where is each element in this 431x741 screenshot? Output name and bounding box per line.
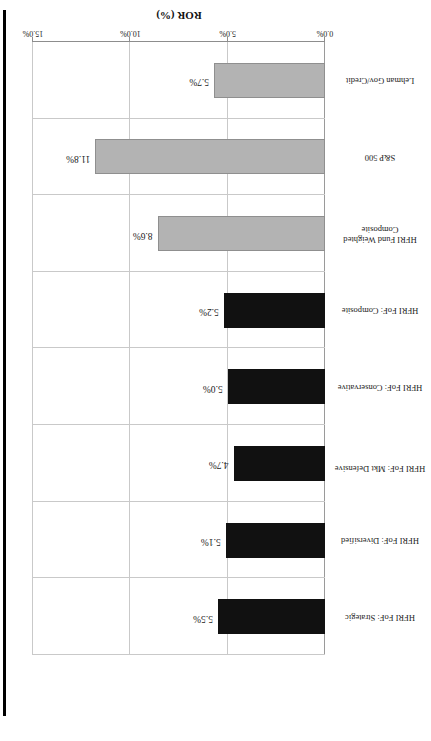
category-label: Lehman Gov/Credit <box>331 76 429 86</box>
category-label: HFRI FoF: Composite <box>331 306 429 316</box>
category-label: HFRI FoF: Diversified <box>331 536 429 546</box>
bar-value-label: 8.6% <box>133 231 153 241</box>
bar <box>224 293 325 328</box>
category-divider <box>33 577 325 578</box>
bar-value-label: 4.7% <box>209 460 229 470</box>
plot-top-border <box>33 654 325 655</box>
category-divider <box>33 118 325 119</box>
category-label: HFRI Fund Weighted Composite <box>331 225 429 245</box>
bar <box>226 523 325 558</box>
bar <box>218 599 325 634</box>
category-label: HFRI FoF: Strategic <box>331 613 429 623</box>
bar-chart-figure: 5.5%5.1%4.7%5.0%5.2%8.6%11.8%5.7% HFRI F… <box>0 0 431 741</box>
category-dividers-group <box>33 42 325 655</box>
category-divider <box>33 501 325 502</box>
category-label: HFRI FoF: Conservative <box>331 383 429 393</box>
bar-value-label: 5.1% <box>201 537 221 547</box>
bar <box>158 216 325 251</box>
axis-tick-label: 10.0% <box>120 29 141 38</box>
category-divider <box>33 271 325 272</box>
category-label: HFRI FoF: Mkt Defensive <box>331 464 429 474</box>
bar-value-label: 5.5% <box>193 614 213 624</box>
bar <box>214 63 325 98</box>
bar-value-label: 5.0% <box>203 384 223 394</box>
category-divider <box>33 194 325 195</box>
axis-tick-label: 5.0% <box>219 29 236 38</box>
axis-tick-label: 15.0% <box>23 29 44 38</box>
bar <box>228 369 325 404</box>
bar-value-label: 5.7% <box>189 77 209 87</box>
category-divider <box>33 348 325 349</box>
bar-value-label: 11.8% <box>66 154 90 164</box>
bar <box>95 139 325 174</box>
bar <box>234 446 325 481</box>
bar-value-label: 5.2% <box>199 307 219 317</box>
axis-title: ROR (%) <box>33 10 325 22</box>
axis-tick-label: 0.0% <box>317 29 334 38</box>
category-label: S&P 500 <box>331 153 429 163</box>
category-divider <box>33 424 325 425</box>
